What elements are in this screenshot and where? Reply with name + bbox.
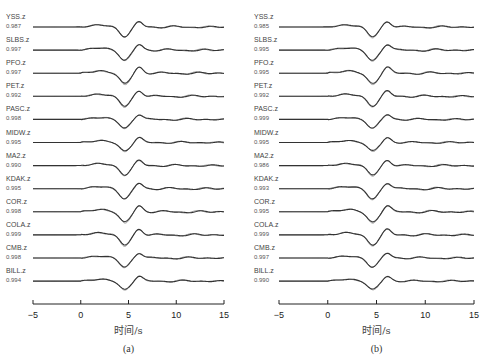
correlation-label: 0.990 [6,162,22,168]
synthetic-waveform [33,67,224,85]
correlation-label: 0.998 [6,208,22,214]
trace-bill-z: BILL.z0.994 [6,267,224,290]
station-label: YSS.z [6,13,26,20]
correlation-label: 0.995 [6,139,22,145]
correlation-label: 0.999 [6,231,22,237]
x-axis-label: 时间/s [362,324,391,336]
correlation-label: 0.998 [6,115,22,121]
observed-waveform [279,115,474,128]
panel-label: (b) [371,343,383,355]
trace-cmb-z: CMB.z0.998 [6,244,224,268]
x-tick-label: 15 [219,310,229,320]
synthetic-waveform [33,161,224,176]
station-label: SLBS.z [254,36,278,43]
correlation-label: 0.990 [254,277,270,283]
synthetic-waveform [33,206,224,223]
correlation-label: 0.985 [254,23,270,29]
station-label: MA2.z [6,152,26,159]
station-label: CMB.z [254,244,276,251]
x-tick-label: 10 [420,310,430,320]
trace-cola-z: COLA.z0.999 [254,221,474,246]
x-tick-label: −5 [274,310,284,320]
station-label: KDAK.z [6,175,31,182]
station-label: SLBS.z [6,36,30,43]
observed-waveform [279,253,474,267]
station-label: PFO.z [254,59,274,66]
x-tick-label: 10 [171,310,181,320]
observed-waveform [279,277,474,290]
correlation-label: 0.995 [254,46,270,52]
correlation-label: 0.987 [6,23,22,29]
station-label: CMB.z [6,244,28,251]
x-axis-label: 时间/s [114,324,143,336]
panel-label: (a) [123,343,134,355]
x-tick-label: 15 [469,310,479,320]
trace-ma2-z: MA2.z0.990 [6,152,224,176]
synthetic-waveform [279,138,474,152]
correlation-label: 0.993 [254,185,270,191]
synthetic-waveform [33,115,224,129]
trace-pasc-z: PASC.z0.998 [6,105,224,128]
station-label: PET.z [254,82,273,89]
synthetic-waveform [279,276,474,290]
trace-midw-z: MIDW.z0.995 [254,129,474,152]
station-label: COR.z [6,198,28,205]
correlation-label: 0.995 [6,185,22,191]
observed-waveform [279,229,474,245]
station-label: PASC.z [6,105,30,112]
observed-waveform [279,184,474,199]
station-label: YSS.z [254,13,274,20]
trace-slbs-z: SLBS.z0.997 [6,36,224,61]
trace-pfo-z: PFO.z0.997 [6,59,224,84]
trace-pet-z: PET.z0.992 [6,82,224,107]
x-tick-label: −5 [28,310,38,320]
observed-waveform [33,160,224,175]
observed-waveform [33,206,224,222]
trace-ma2-z: MA2.z0.986 [254,152,474,177]
x-tick-label: 0 [78,310,83,320]
x-tick-label: 0 [325,310,330,320]
observed-waveform [279,206,474,222]
observed-waveform [33,229,224,245]
trace-slbs-z: SLBS.z0.995 [254,36,474,61]
synthetic-waveform [33,22,224,37]
observed-waveform [33,137,224,150]
synthetic-waveform [33,184,224,200]
station-label: KDAK.z [254,175,279,182]
trace-cor-z: COR.z0.995 [254,198,474,223]
observed-waveform [279,91,474,107]
synthetic-waveform [279,254,474,268]
observed-waveform [279,22,474,37]
trace-pet-z: PET.z0.992 [254,82,474,107]
correlation-label: 0.999 [254,231,270,237]
station-label: BILL.z [254,267,274,274]
observed-waveform [33,254,224,267]
correlation-label: 0.997 [254,254,270,260]
correlation-label: 0.986 [254,162,270,168]
trace-kdak-z: KDAK.z0.995 [6,175,224,199]
x-axis: −5051015 [28,300,229,320]
synthetic-waveform [279,22,474,38]
correlation-label: 0.995 [254,139,270,145]
station-label: MIDW.z [6,129,31,136]
trace-cmb-z: CMB.z0.997 [254,244,474,267]
synthetic-waveform [33,253,224,267]
x-tick-label: 5 [126,310,131,320]
synthetic-waveform [279,206,474,224]
correlation-label: 0.992 [254,92,270,98]
trace-pfo-z: PFO.z0.995 [254,59,474,84]
trace-cor-z: COR.z0.998 [6,198,224,223]
trace-bill-z: BILL.z0.990 [254,267,474,290]
synthetic-waveform [279,45,474,62]
observed-waveform [33,22,224,37]
observed-waveform [33,276,224,289]
trace-pasc-z: PASC.z0.999 [254,105,474,128]
correlation-label: 0.994 [6,277,22,283]
station-label: MIDW.z [254,129,279,136]
trace-midw-z: MIDW.z0.995 [6,129,224,152]
x-axis: −5051015 [274,300,479,320]
panel-a: YSS.z0.987SLBS.z0.997PFO.z0.997PET.z0.99… [6,13,229,355]
figure: YSS.z0.987SLBS.z0.997PFO.z0.997PET.z0.99… [0,0,490,363]
synthetic-waveform [279,161,474,177]
trace-cola-z: COLA.z0.999 [6,221,224,246]
